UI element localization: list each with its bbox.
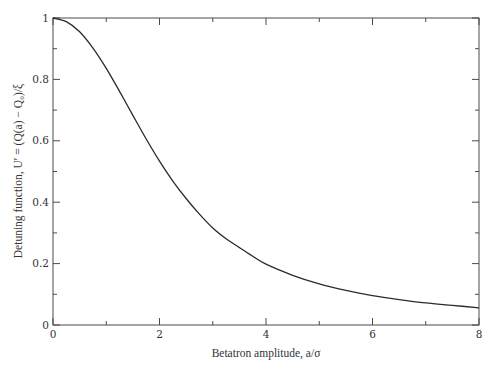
detuning-chart: 0246800.20.40.60.81 Betatron amplitude, … bbox=[0, 0, 494, 369]
x-tick-label: 8 bbox=[476, 328, 483, 340]
y-tick-label: 0.2 bbox=[32, 257, 49, 269]
plot-area: 0246800.20.40.60.81 bbox=[32, 12, 482, 341]
y-tick-label: 0.6 bbox=[32, 134, 49, 146]
y-tick-label: 0.8 bbox=[32, 73, 49, 85]
tick-labels: 0246800.20.40.60.81 bbox=[32, 12, 482, 341]
axis-ticks bbox=[53, 18, 479, 325]
x-tick-label: 4 bbox=[263, 328, 270, 340]
y-tick-label: 0.4 bbox=[32, 196, 49, 208]
x-tick-label: 6 bbox=[369, 328, 376, 340]
y-tick-label: 1 bbox=[42, 12, 49, 24]
x-tick-label: 2 bbox=[156, 328, 163, 340]
plot-frame bbox=[53, 18, 479, 325]
y-tick-label: 0 bbox=[42, 319, 49, 331]
detuning-curve bbox=[53, 18, 479, 308]
x-axis-title: Betatron amplitude, a/σ bbox=[212, 347, 322, 360]
y-axis-title: Detuning function, U′ = (Q(a) − Q₀)/ξ bbox=[12, 84, 25, 258]
x-tick-label: 0 bbox=[50, 328, 57, 340]
